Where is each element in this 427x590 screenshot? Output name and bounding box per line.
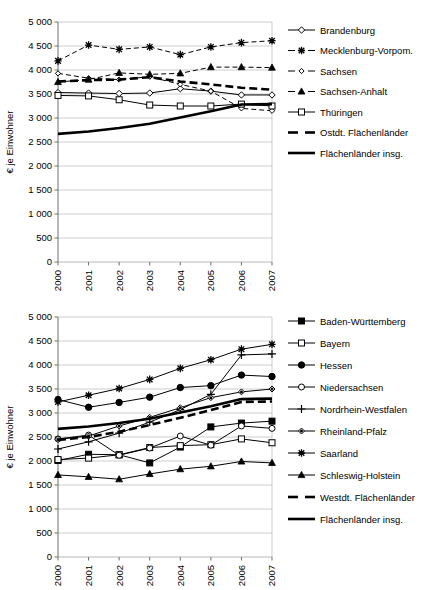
marker-star: [54, 57, 61, 65]
legend-item-sachsen-anhalt[interactable]: Sachsen-Anhalt: [288, 86, 387, 97]
marker-diamond-open: [238, 92, 244, 98]
marker-triangle-filled: [298, 88, 305, 94]
marker-star: [298, 449, 305, 457]
y-tick-label: 2 500: [28, 136, 52, 147]
legend-item-bayern[interactable]: Bayern: [288, 338, 350, 349]
chart-svg-east: 05001 0001 5002 0002 5003 0003 5004 0004…: [0, 0, 427, 295]
marker-triangle-filled: [269, 64, 276, 70]
legend-item-fl-chenl-nder-insg[interactable]: Flächenländer insg.: [288, 514, 403, 525]
legend-label: Mecklenburg-Vorpom.: [320, 45, 413, 56]
y-tick-label: 4 500: [28, 40, 52, 51]
marker-diamond-small-open: [299, 68, 304, 73]
legend-item-mecklenburg-vorpom[interactable]: Mecklenburg-Vorpom.: [288, 45, 413, 56]
marker-circle-open: [208, 442, 214, 448]
legend-label: Westdt. Flächenländer: [320, 492, 415, 503]
marker-square-open: [86, 93, 92, 99]
marker-star: [116, 46, 123, 54]
y-axis-title: € je Einwohner: [4, 111, 15, 174]
y-tick-label: 0: [47, 551, 52, 562]
legend-label: Schleswig-Holstein: [320, 470, 400, 481]
x-axis: 20002001200220032004200520062007: [52, 557, 277, 586]
y-tick-label: 1 500: [28, 184, 52, 195]
x-tick-label: 2003: [144, 270, 155, 291]
marker-star: [85, 41, 92, 49]
y-axis: 05001 0001 5002 0002 5003 0003 5004 0004…: [28, 16, 58, 267]
marker-triangle-filled: [238, 64, 245, 70]
marker-diamond-center: [300, 430, 303, 433]
marker-diamond-center: [271, 388, 274, 391]
x-tick-label: 2007: [266, 565, 277, 586]
chart-svg-west: 05001 0001 5002 0002 5003 0003 5004 0004…: [0, 295, 427, 590]
legend-item-saarland[interactable]: Saarland: [288, 448, 358, 459]
legend-item-schleswig-holstein[interactable]: Schleswig-Holstein: [288, 470, 400, 481]
y-tick-label: 500: [36, 232, 52, 243]
marker-diamond-open: [298, 27, 304, 33]
legend-label: Ostdt. Flächenländer: [320, 127, 408, 138]
marker-diamond-small-open: [55, 71, 60, 76]
marker-circle-open: [269, 425, 275, 431]
legend-item-sachsen[interactable]: Sachsen: [288, 66, 357, 77]
marker-plus: [54, 445, 62, 453]
legend-item-niedersachsen[interactable]: Niedersachsen: [288, 382, 383, 393]
marker-square-open: [177, 443, 183, 449]
legend-item-fl-chenl-nder-insg[interactable]: Flächenländer insg.: [288, 148, 403, 159]
marker-circle-open: [177, 433, 183, 439]
marker-circle-filled: [147, 394, 153, 400]
marker-circle-open: [116, 452, 122, 458]
y-tick-label: 4 000: [28, 64, 52, 75]
y-tick-label: 1 500: [28, 479, 52, 490]
marker-square-open: [177, 103, 183, 109]
y-tick-label: 0: [47, 256, 52, 267]
marker-circle-filled: [298, 362, 304, 368]
legend-item-ostdt-fl-chenl-nder[interactable]: Ostdt. Flächenländer: [288, 127, 408, 138]
y-tick-label: 500: [36, 527, 52, 538]
y-tick-label: 2 000: [28, 160, 52, 171]
x-tick-label: 2006: [236, 565, 247, 586]
legend: Baden-WürttembergBayernHessenNiedersachs…: [288, 316, 415, 525]
marker-square-open: [147, 102, 153, 108]
marker-plus: [298, 405, 306, 413]
marker-diamond-center: [179, 406, 182, 409]
y-tick-label: 1 000: [28, 208, 52, 219]
y-tick-label: 3 500: [28, 383, 52, 394]
legend-item-brandenburg[interactable]: Brandenburg: [288, 25, 375, 36]
marker-diamond-open: [147, 90, 153, 96]
y-tick-label: 4 500: [28, 335, 52, 346]
marker-diamond-center: [240, 390, 243, 393]
marker-diamond-open: [269, 92, 275, 98]
marker-circle-filled: [208, 382, 214, 388]
marker-circle-filled: [177, 384, 183, 390]
legend: BrandenburgMecklenburg-Vorpom.SachsenSac…: [288, 25, 413, 159]
marker-star: [116, 385, 123, 393]
marker-triangle-filled: [177, 70, 184, 76]
legend-label: Flächenländer insg.: [320, 514, 403, 525]
legend-label: Rheinland-Pfalz: [320, 426, 387, 437]
legend-item-rheinland-pfalz[interactable]: Rheinland-Pfalz: [288, 426, 387, 437]
y-tick-label: 2 000: [28, 455, 52, 466]
marker-star: [268, 341, 275, 349]
legend-item-hessen[interactable]: Hessen: [288, 360, 352, 371]
series-sachsen-anhalt: [55, 64, 276, 85]
y-axis: 05001 0001 5002 0002 5003 0003 5004 0004…: [28, 311, 58, 562]
marker-star: [177, 51, 184, 59]
legend-label: Thüringen: [320, 107, 363, 118]
x-tick-label: 2000: [52, 270, 63, 291]
legend-item-nordrhein-westfalen[interactable]: Nordrhein-Westfalen: [288, 404, 407, 415]
marker-square-open: [55, 457, 61, 463]
legend-item-th-ringen[interactable]: Thüringen: [288, 107, 363, 118]
x-tick-label: 2004: [175, 270, 186, 291]
y-tick-label: 5 000: [28, 16, 52, 27]
legend-item-baden-w-rttemberg[interactable]: Baden-Württemberg: [288, 316, 406, 327]
marker-square-filled: [147, 460, 153, 466]
marker-circle-filled: [85, 404, 91, 410]
marker-star: [85, 391, 92, 399]
x-tick-label: 2001: [83, 565, 94, 586]
marker-square-filled: [269, 418, 275, 424]
legend-item-westdt-fl-chenl-nder[interactable]: Westdt. Flächenländer: [288, 492, 415, 503]
marker-star: [146, 43, 153, 51]
x-tick-label: 2007: [266, 270, 277, 291]
marker-diamond-center: [209, 396, 212, 399]
legend-label: Flächenländer insg.: [320, 148, 403, 159]
legend-label: Baden-Württemberg: [320, 316, 406, 327]
marker-star: [238, 39, 245, 47]
